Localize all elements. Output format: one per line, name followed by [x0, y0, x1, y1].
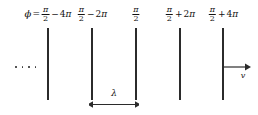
fraction-denominator: 2 [78, 15, 85, 23]
wavelength-label: λ [111, 88, 117, 98]
fraction-pi-over-2: π2 [209, 6, 216, 23]
fraction-pi-over-2: π2 [166, 6, 173, 23]
phase-operator: + [175, 9, 183, 19]
fraction-pi-over-2: π2 [78, 6, 85, 23]
phase-unit: π [189, 9, 195, 19]
velocity-arrow [221, 61, 253, 73]
ellipsis-dot [15, 66, 17, 68]
equals-sign: = [32, 9, 40, 19]
fraction-denominator: 2 [166, 15, 173, 23]
wavefront-line-1 [47, 28, 48, 100]
ellipsis-dot [28, 66, 30, 68]
ellipsis-dots [15, 66, 36, 68]
fraction-denominator: 2 [42, 15, 49, 23]
fraction-denominator: 2 [132, 15, 139, 23]
phase-symbol: ϕ [25, 8, 32, 19]
fraction-pi-over-2: π2 [132, 6, 139, 23]
phase-unit: π [66, 9, 72, 19]
wavefront-line-4 [179, 28, 180, 100]
wavefront-diagram: ϕ=π2−4π π2−2π π2 π2+2π π2+4π λ [0, 0, 258, 115]
phase-label-5: π2+4π [208, 6, 238, 23]
wavefront-line-3 [135, 28, 136, 100]
phase-unit: π [232, 9, 238, 19]
phase-operator: + [218, 9, 226, 19]
phase-label-3: π2 [131, 6, 140, 23]
ellipsis-dot [35, 66, 37, 68]
phase-operator: − [87, 9, 95, 19]
phase-label-1: ϕ=π2−4π [25, 6, 72, 23]
phase-unit: π [101, 9, 107, 19]
wavelength-arrow [89, 99, 139, 111]
phase-label-4: π2+2π [165, 6, 195, 23]
phase-operator: − [51, 9, 59, 19]
phase-label-2: π2−2π [77, 6, 107, 23]
velocity-label: v [241, 71, 246, 80]
wavefront-line-2 [91, 28, 92, 100]
fraction-denominator: 2 [209, 15, 216, 23]
fraction-pi-over-2: π2 [42, 6, 49, 23]
ellipsis-dot [22, 66, 24, 68]
